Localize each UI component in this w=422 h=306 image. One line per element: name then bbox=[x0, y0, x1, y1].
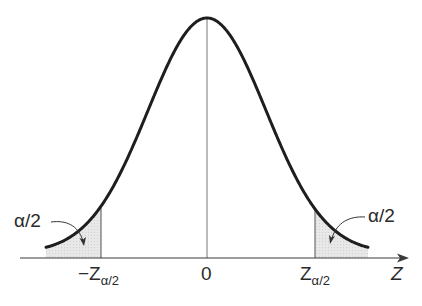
right-tail-shaded-region bbox=[315, 209, 368, 258]
left-critical-subscript: α/2 bbox=[101, 273, 119, 288]
right-critical-value-label: Zα/2 bbox=[300, 263, 330, 288]
right-tail-alpha-label: α/2 bbox=[368, 205, 395, 226]
left-tail-alpha-label: α/2 bbox=[14, 210, 41, 231]
left-critical-value-label: −Zα/2 bbox=[78, 263, 119, 288]
right-critical-subscript: α/2 bbox=[312, 273, 330, 288]
right-critical-z: Z bbox=[300, 263, 312, 284]
normal-distribution-diagram: α/2 α/2 −Zα/2 0 Zα/2 Z bbox=[0, 0, 422, 306]
left-critical-z: −Z bbox=[78, 263, 101, 284]
left-tail-shaded-region bbox=[46, 206, 101, 258]
center-zero-label: 0 bbox=[201, 263, 212, 284]
z-axis-label: Z bbox=[390, 263, 404, 284]
